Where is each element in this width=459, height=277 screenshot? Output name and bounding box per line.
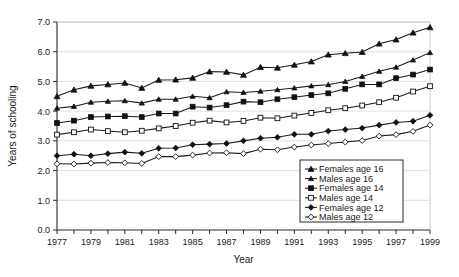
y-tick-label: 2.0: [37, 166, 50, 176]
datapoint-females-age-12: [291, 131, 297, 137]
datapoint-females-age-14: [55, 121, 60, 126]
datapoint-females-age-16: [54, 93, 60, 98]
datapoint-males-age-14: [173, 124, 178, 129]
datapoint-females-age-14: [139, 115, 144, 120]
datapoint-females-age-12: [54, 153, 60, 159]
datapoint-males-age-12: [410, 128, 416, 134]
datapoint-males-age-12: [71, 161, 77, 167]
y-tick-label: 6.0: [37, 47, 50, 57]
datapoint-females-age-12: [241, 138, 247, 144]
datapoint-females-age-14: [156, 111, 161, 116]
datapoint-females-age-12: [258, 135, 264, 141]
datapoint-males-age-14: [241, 119, 246, 124]
datapoint-females-age-12: [275, 134, 281, 140]
datapoint-males-age-12: [393, 132, 399, 138]
datapoint-males-age-16: [410, 58, 415, 62]
legend-marker-open-square: [309, 195, 314, 200]
datapoint-males-age-14: [292, 113, 297, 118]
datapoint-males-age-12: [376, 133, 382, 139]
x-tick-label: 1983: [149, 237, 169, 247]
x-tick-label: 1993: [318, 237, 338, 247]
datapoint-females-age-14: [394, 76, 399, 81]
datapoint-females-age-14: [207, 105, 212, 110]
legend-marker-filled-square: [309, 186, 314, 191]
datapoint-males-age-14: [343, 106, 348, 111]
datapoint-females-age-12: [105, 151, 111, 157]
datapoint-males-age-14: [105, 129, 110, 134]
y-tick-label: 0.0: [37, 225, 50, 235]
datapoint-males-age-14: [122, 130, 127, 135]
datapoint-females-age-16: [308, 59, 314, 64]
datapoint-females-age-14: [428, 67, 433, 72]
datapoint-males-age-12: [275, 147, 281, 153]
datapoint-females-age-12: [224, 141, 230, 147]
datapoint-females-age-12: [325, 128, 331, 134]
x-axis-title: Year: [233, 254, 254, 265]
y-tick-label: 7.0: [37, 17, 50, 27]
datapoint-females-age-14: [224, 103, 229, 108]
datapoint-females-age-16: [427, 25, 433, 30]
datapoint-males-age-12: [139, 161, 145, 167]
datapoint-females-age-14: [190, 104, 195, 109]
datapoint-males-age-12: [105, 160, 111, 166]
legend-label-females-age-16: Females age 16: [319, 164, 384, 174]
datapoint-males-age-14: [309, 111, 314, 116]
datapoint-females-age-14: [275, 97, 280, 102]
x-tick-label: 1989: [250, 237, 270, 247]
x-tick-label: 1997: [386, 237, 406, 247]
datapoint-females-age-12: [308, 131, 314, 137]
datapoint-males-age-12: [224, 150, 230, 156]
y-axis-title: Years of schooling: [7, 85, 18, 166]
datapoint-males-age-14: [89, 127, 94, 132]
legend-label-males-age-12: Males age 12: [319, 212, 373, 222]
datapoint-males-age-14: [190, 120, 195, 125]
datapoint-males-age-12: [258, 146, 264, 152]
datapoint-females-age-12: [342, 127, 348, 133]
datapoint-females-age-12: [410, 118, 416, 124]
datapoint-females-age-14: [292, 95, 297, 100]
datapoint-females-age-14: [173, 111, 178, 116]
datapoint-females-age-12: [88, 153, 94, 159]
y-tick-label: 1.0: [37, 196, 50, 206]
datapoint-males-age-14: [360, 103, 365, 108]
datapoint-females-age-12: [393, 120, 399, 126]
datapoint-males-age-12: [325, 141, 331, 147]
x-tick-label: 1977: [47, 237, 67, 247]
datapoint-males-age-12: [122, 160, 128, 166]
datapoint-females-age-14: [258, 100, 263, 105]
datapoint-males-age-14: [275, 116, 280, 121]
datapoint-females-age-14: [411, 72, 416, 77]
legend-label-males-age-16: Males age 16: [319, 174, 373, 184]
legend-label-males-age-14: Males age 14: [319, 193, 373, 203]
y-tick-label: 5.0: [37, 77, 50, 87]
datapoint-females-age-12: [359, 125, 365, 131]
datapoint-females-age-12: [122, 149, 128, 155]
datapoint-males-age-16: [427, 50, 432, 54]
y-tick-label: 3.0: [37, 136, 50, 146]
line-chart: 0.01.02.03.04.05.06.07.01977197919811983…: [0, 0, 459, 277]
datapoint-males-age-14: [377, 100, 382, 105]
datapoint-females-age-14: [360, 82, 365, 87]
datapoint-males-age-12: [308, 142, 314, 148]
datapoint-females-age-12: [156, 145, 162, 151]
datapoint-females-age-12: [376, 122, 382, 128]
datapoint-females-age-12: [71, 151, 77, 157]
x-tick-label: 1987: [217, 237, 237, 247]
datapoint-females-age-14: [343, 86, 348, 91]
datapoint-females-age-14: [309, 93, 314, 98]
datapoint-males-age-12: [427, 122, 433, 128]
datapoint-males-age-14: [139, 128, 144, 133]
x-tick-label: 1995: [352, 237, 372, 247]
datapoint-males-age-12: [88, 160, 94, 166]
datapoint-males-age-14: [428, 84, 433, 89]
datapoint-females-age-14: [241, 99, 246, 104]
x-tick-label: 1981: [115, 237, 135, 247]
series-line-females-age-16: [57, 27, 430, 96]
datapoint-males-age-12: [241, 151, 247, 157]
x-tick-label: 1999: [420, 237, 440, 247]
datapoint-males-age-12: [190, 152, 196, 158]
datapoint-males-age-14: [258, 115, 263, 120]
datapoint-males-age-12: [54, 161, 60, 167]
chart-container: 0.01.02.03.04.05.06.07.01977197919811983…: [0, 0, 459, 277]
datapoint-males-age-14: [394, 95, 399, 100]
